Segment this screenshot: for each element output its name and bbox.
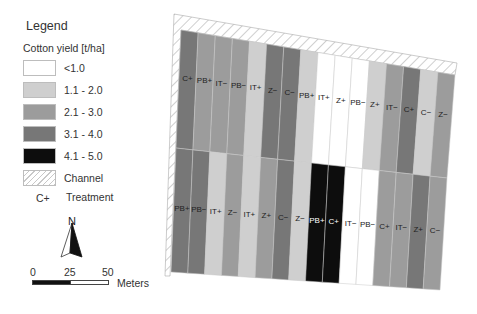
treatment-label: Z+	[262, 211, 272, 220]
treatment-label: Z−	[438, 110, 448, 119]
treatment-label: Z−	[228, 208, 238, 217]
treatment-label: Z−	[268, 86, 278, 95]
treatment-label: C−	[430, 226, 441, 235]
treatment-label: PB−	[191, 205, 207, 214]
treatment-label: PB+	[174, 204, 190, 213]
treatment-label: IT−	[216, 79, 228, 88]
treatment-label: C−	[278, 213, 289, 222]
treatment-label: IT−	[345, 219, 357, 228]
treatment-label: C+	[182, 74, 193, 83]
treatment-label: PB−	[360, 220, 376, 229]
treatment-label: IT−	[386, 103, 398, 112]
treatment-label: Z+	[413, 225, 423, 234]
treatment-label: PB−	[350, 98, 366, 107]
plot-grid: C+PB+IT−PB−IT+Z−C−PB+IT+Z+PB−Z+IT−C+C−Z−…	[171, 30, 455, 290]
treatment-label: IT+	[250, 83, 262, 92]
treatment-label: C+	[404, 105, 415, 114]
treatment-label: C+	[379, 222, 390, 231]
treatment-label: PB+	[299, 91, 315, 100]
treatment-label: PB+	[197, 76, 213, 85]
treatment-label: C+	[329, 217, 340, 226]
treatment-label: IT+	[244, 210, 256, 219]
treatment-label: IT+	[210, 207, 222, 216]
treatment-label: Z+	[336, 96, 346, 105]
treatment-label: IT+	[318, 93, 330, 102]
treatment-label: IT−	[395, 223, 407, 232]
treatment-label: Z+	[370, 100, 380, 109]
treatment-label: Z−	[295, 214, 305, 223]
treatment-label: PB−	[231, 81, 247, 90]
treatment-label: C−	[421, 108, 432, 117]
field-map: C+PB+IT−PB−IT+Z−C−PB+IT+Z+PB−Z+IT−C+C−Z−…	[0, 0, 477, 314]
treatment-label: PB+	[309, 216, 325, 225]
treatment-label: C−	[284, 88, 295, 97]
